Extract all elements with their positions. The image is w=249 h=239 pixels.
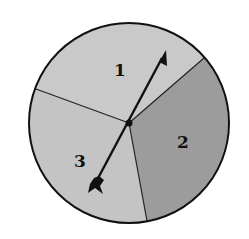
spinner-diagram: 1 2 3: [0, 0, 249, 239]
spinner-pivot: [126, 120, 133, 127]
section-label-2: 2: [177, 132, 189, 152]
section-label-3: 3: [74, 151, 86, 171]
section-label-1: 1: [114, 60, 126, 80]
